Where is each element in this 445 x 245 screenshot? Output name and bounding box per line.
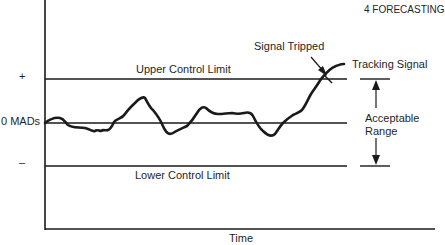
range-up-arrowhead — [372, 80, 380, 90]
tracking-signal-label: Tracking Signal — [352, 58, 427, 70]
upper-control-limit-label: Upper Control Limit — [136, 63, 231, 75]
chapter-header: 4 FORECASTING — [364, 4, 445, 15]
acceptable-range-label-line1: Acceptable — [365, 112, 419, 124]
y-label-zero: 0 MADs — [1, 115, 40, 127]
y-label-plus: + — [19, 70, 25, 82]
acceptable-range-label-line2: Range — [365, 125, 397, 137]
y-label-minus: – — [19, 156, 25, 168]
signal-tripped-label: Signal Tripped — [254, 40, 324, 52]
x-axis-label: Time — [229, 232, 253, 244]
lower-control-limit-label: Lower Control Limit — [135, 169, 230, 181]
range-down-arrowhead — [372, 155, 380, 165]
